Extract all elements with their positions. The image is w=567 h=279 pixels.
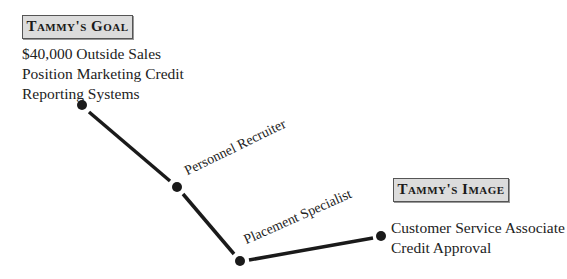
path-node [376,231,386,241]
path-segment [249,238,373,260]
career-path-diagram [0,0,567,279]
path-node [77,100,87,110]
path-segment [183,194,234,254]
path-node [172,182,182,192]
path-node [235,256,245,266]
path-segment [89,112,170,181]
